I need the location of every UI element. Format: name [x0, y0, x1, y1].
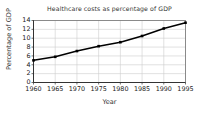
x-tick-label: 1990 — [153, 86, 175, 92]
x-tick-label: 1965 — [44, 86, 66, 92]
x-tick-label: 1960 — [23, 86, 45, 92]
chart-figure: Healthcare costs as percentage of GDP Pe… — [0, 0, 199, 114]
y-tick-label: 8 — [18, 44, 31, 50]
x-tick-label: 1980 — [109, 86, 131, 92]
gridlines — [34, 21, 186, 83]
y-tick-label: 12 — [18, 26, 31, 32]
y-tick-label: 2 — [18, 70, 31, 76]
y-tick-label: 14 — [18, 17, 31, 23]
axis-frame — [34, 21, 186, 83]
x-tick-label: 1975 — [88, 86, 110, 92]
x-tick-label: 1970 — [66, 86, 88, 92]
x-tick-label: 1995 — [175, 86, 197, 92]
y-tick-label: 10 — [18, 35, 31, 41]
axis-ticks — [32, 21, 186, 85]
x-tick-label: 1985 — [131, 86, 153, 92]
y-tick-label: 6 — [18, 53, 31, 59]
y-tick-label: 4 — [18, 62, 31, 68]
